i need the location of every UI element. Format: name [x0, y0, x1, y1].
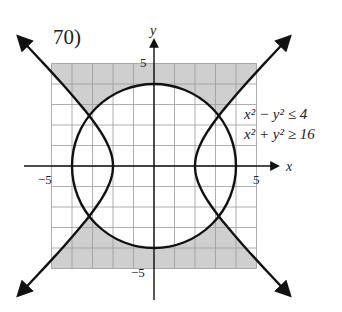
graph: 70) y x 5 −5 −5 5 x² − y² ≤ 4 x² + y² ≥ … [0, 0, 342, 312]
y-tick-5: 5 [140, 55, 147, 70]
y-tick-neg5: −5 [131, 265, 145, 280]
x-tick-neg5: −5 [38, 172, 52, 187]
inequality-1: x² − y² ≤ 4 [243, 106, 308, 122]
x-tick-5: 5 [253, 172, 260, 187]
inequality-2: x² + y² ≥ 16 [243, 126, 315, 142]
y-axis-label: y [148, 23, 157, 38]
problem-number: 70) [53, 25, 81, 49]
x-axis-label: x [285, 159, 293, 174]
